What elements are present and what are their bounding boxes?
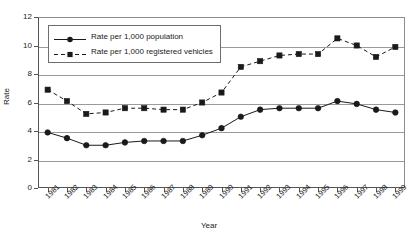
y-tick-mark [34, 46, 38, 47]
y-tick-label: 2 [28, 156, 32, 164]
gridline [39, 104, 404, 105]
y-tick-label: 8 [28, 70, 32, 78]
y-tick-mark [34, 17, 38, 18]
y-tick-label: 12 [23, 13, 32, 21]
legend-label: Rate per 1,000 population [91, 32, 183, 41]
chart-legend: Rate per 1,000 populationRate per 1,000 … [48, 25, 221, 63]
legend-swatch-circle-icon [53, 31, 87, 42]
gridline [39, 161, 404, 162]
y-tick-mark [34, 74, 38, 75]
x-axis-title: Year [0, 221, 418, 230]
y-tick-label: 10 [23, 42, 32, 50]
y-tick-mark [34, 160, 38, 161]
legend-label: Rate per 1,000 registered vehicles [91, 47, 213, 56]
y-tick-mark [34, 103, 38, 104]
legend-swatch-square-icon [53, 46, 87, 57]
chart-container: 024681012 Rate 1981198219831984198519861… [0, 0, 418, 239]
y-tick-label: 6 [28, 99, 32, 107]
y-tick-label: 4 [28, 127, 32, 135]
legend-item[interactable]: Rate per 1,000 registered vehicles [53, 44, 213, 59]
y-tick-label: 0 [28, 184, 32, 192]
y-axis-title: Rate [2, 77, 11, 117]
y-axis: 024681012 [0, 0, 38, 239]
y-tick-mark [34, 131, 38, 132]
y-tick-mark [34, 188, 38, 189]
gridline [39, 75, 404, 76]
legend-item[interactable]: Rate per 1,000 population [53, 29, 213, 44]
gridline [39, 132, 404, 133]
